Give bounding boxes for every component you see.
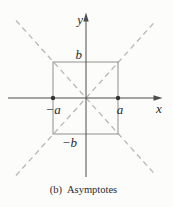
- caption: (b) Asymptotes: [50, 184, 117, 196]
- y-axis-arrow: [83, 13, 88, 22]
- vertex-dot-left: [51, 96, 55, 100]
- neg-a-label: −a: [45, 102, 61, 117]
- a-label: a: [117, 102, 124, 117]
- vertex-dot-right: [116, 96, 120, 100]
- x-axis-label: x: [155, 101, 162, 116]
- caption-title: Asymptotes: [67, 184, 117, 195]
- asymptotes-figure: y x b −b −a a (b) Asymptotes: [0, 0, 173, 207]
- neg-b-label: −b: [62, 135, 78, 150]
- b-label: b: [76, 47, 83, 62]
- caption-label: (b): [50, 184, 63, 196]
- x-axis-arrow: [154, 95, 163, 100]
- y-axis-label: y: [75, 12, 83, 27]
- figure-canvas: y x b −b −a a (b) Asymptotes: [0, 0, 173, 207]
